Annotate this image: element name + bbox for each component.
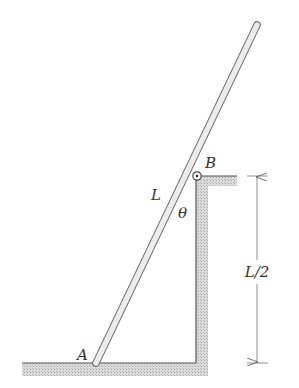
rod-on-ledge-diagram: L/2 A B L θ bbox=[0, 0, 299, 388]
rod bbox=[96, 25, 257, 363]
floor-hatch bbox=[22, 363, 208, 376]
pin-b bbox=[193, 172, 201, 180]
rod-fill bbox=[96, 25, 257, 363]
label-point-b: B bbox=[204, 154, 216, 172]
label-rod-length: L bbox=[150, 186, 161, 204]
floor bbox=[22, 363, 208, 376]
height-dimension: L/2 bbox=[244, 176, 270, 363]
label-height: L/2 bbox=[244, 263, 270, 281]
ledge bbox=[199, 176, 237, 186]
wall-hatch bbox=[196, 180, 208, 376]
label-angle-theta: θ bbox=[178, 204, 187, 222]
wall bbox=[196, 180, 208, 376]
ledge-hatch bbox=[199, 176, 237, 186]
label-point-a: A bbox=[75, 346, 88, 364]
pin-center-dot bbox=[196, 175, 199, 178]
